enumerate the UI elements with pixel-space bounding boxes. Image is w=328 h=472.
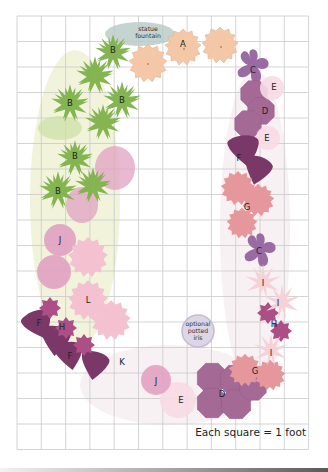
plant-label-g: G — [244, 202, 251, 212]
optional-potted-iris: optional potted iris — [182, 315, 214, 347]
svg-text:fountain: fountain — [135, 32, 161, 39]
plant-label-b: B — [119, 95, 125, 105]
plant-label-g: G — [252, 366, 259, 376]
plant-label-e: E — [264, 133, 269, 143]
plant-label-j: J — [58, 235, 62, 245]
garden-plan-diagram: statue fountain — [0, 0, 328, 472]
scale-note: Each square = 1 foot — [195, 426, 306, 438]
plant-label-c: C — [250, 65, 256, 75]
plant-label-f: F — [237, 153, 242, 163]
plant-label-h: H — [271, 319, 277, 329]
plant-label-c: C — [256, 246, 262, 256]
plant-label-k: K — [119, 357, 125, 367]
svg-text:iris: iris — [193, 334, 202, 341]
plant-label-i: I — [262, 278, 265, 288]
plant-label-j: J — [154, 376, 158, 386]
plant-label-d: D — [219, 389, 226, 399]
svg-text:statue: statue — [138, 25, 158, 32]
plant-label-e: E — [271, 82, 276, 92]
plant-label-b: B — [72, 151, 78, 161]
plant-label-d: D — [262, 106, 269, 116]
plant-label-l: L — [86, 295, 91, 305]
plant-label-i: I — [277, 298, 280, 308]
plant-label-b: B — [110, 45, 116, 55]
plant-label-f: F — [37, 318, 42, 328]
plant-label-a: A — [180, 39, 186, 49]
bottom-edge-shadow — [0, 468, 328, 472]
plant-label-b: B — [55, 186, 61, 196]
plant-label-h: H — [59, 322, 65, 332]
plant-label-i: I — [270, 348, 273, 358]
plant-label-b: B — [67, 98, 73, 108]
plant-label-f: F — [68, 351, 73, 361]
plant-label-e: E — [178, 395, 183, 405]
